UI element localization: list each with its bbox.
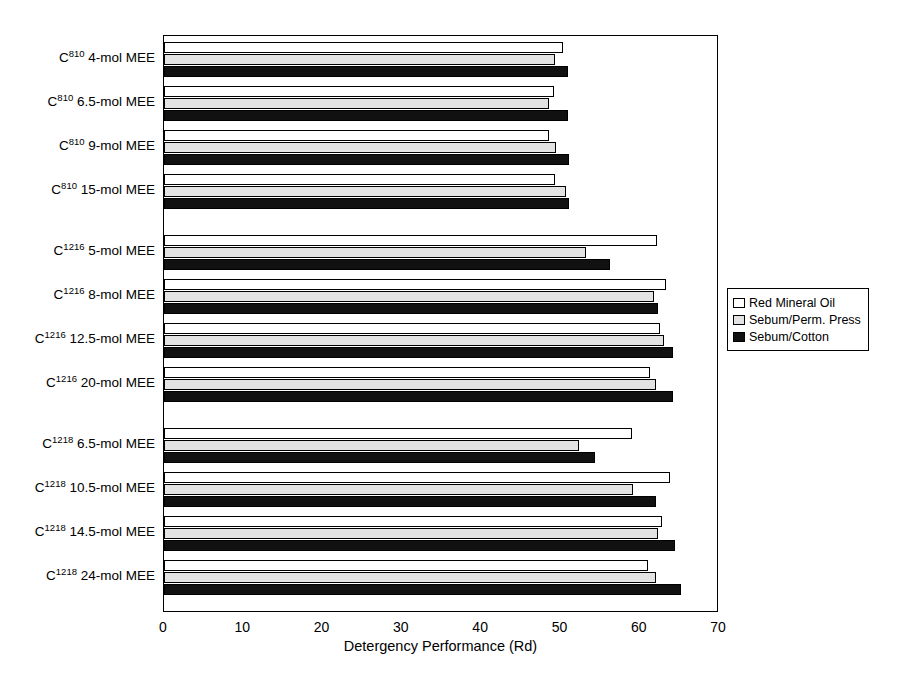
bar <box>164 291 654 302</box>
category-label: C1218 24-mol MEE <box>0 569 155 583</box>
legend-label: Sebum/Cotton <box>749 330 829 344</box>
x-tick-label: 40 <box>472 619 488 635</box>
bar-group <box>164 428 717 464</box>
bar <box>164 540 675 551</box>
category-label: C1218 6.5-mol MEE <box>0 437 155 451</box>
bar <box>164 516 662 527</box>
bar <box>164 303 658 314</box>
x-tick-label: 10 <box>234 619 250 635</box>
bar-group <box>164 323 717 359</box>
category-label: C810 6.5-mol MEE <box>0 95 155 109</box>
bar <box>164 42 563 53</box>
x-tick-label: 60 <box>631 619 647 635</box>
bar <box>164 235 657 246</box>
bar <box>164 367 650 378</box>
category-label: C1218 14.5-mol MEE <box>0 525 155 539</box>
bar <box>164 584 681 595</box>
bar <box>164 496 656 507</box>
bar <box>164 186 566 197</box>
bar <box>164 440 579 451</box>
category-axis-labels: C810 4-mol MEEC810 6.5-mol MEEC810 9-mol… <box>0 35 155 612</box>
legend-label: Sebum/Perm. Press <box>749 313 861 327</box>
plot-area <box>163 35 718 612</box>
bar-group <box>164 86 717 122</box>
bar <box>164 110 568 121</box>
bar <box>164 484 633 495</box>
bar <box>164 142 556 153</box>
bar <box>164 98 549 109</box>
bar <box>164 174 555 185</box>
bar-group <box>164 279 717 315</box>
bar-group <box>164 367 717 403</box>
bar <box>164 323 660 334</box>
x-tick-label: 0 <box>159 619 167 635</box>
category-label: C1216 5-mol MEE <box>0 244 155 258</box>
chart-legend: Red Mineral OilSebum/Perm. PressSebum/Co… <box>727 288 869 351</box>
legend-swatch <box>733 298 745 308</box>
bar-group <box>164 174 717 210</box>
category-label: C1216 12.5-mol MEE <box>0 332 155 346</box>
category-label: C1218 10.5-mol MEE <box>0 481 155 495</box>
bar <box>164 428 632 439</box>
legend-item: Sebum/Perm. Press <box>733 311 861 328</box>
legend-item: Red Mineral Oil <box>733 294 861 311</box>
legend-label: Red Mineral Oil <box>749 296 835 310</box>
bar <box>164 528 658 539</box>
bar <box>164 259 610 270</box>
x-tick-label: 20 <box>314 619 330 635</box>
x-axis-tick-labels: 010203040506070 <box>163 613 718 637</box>
category-label: C1216 20-mol MEE <box>0 376 155 390</box>
category-label: C810 4-mol MEE <box>0 51 155 65</box>
bar <box>164 472 670 483</box>
legend-swatch <box>733 315 745 325</box>
legend-swatch <box>733 332 745 342</box>
bar <box>164 335 664 346</box>
category-label: C810 9-mol MEE <box>0 139 155 153</box>
bar-group <box>164 560 717 596</box>
bars-container <box>164 36 717 611</box>
bar <box>164 66 568 77</box>
x-axis-title: Detergency Performance (Rd) <box>163 638 718 654</box>
category-label: C1216 8-mol MEE <box>0 288 155 302</box>
bar <box>164 391 673 402</box>
x-tick-label: 70 <box>710 619 726 635</box>
bar-group <box>164 130 717 166</box>
category-label: C810 15-mol MEE <box>0 183 155 197</box>
x-tick-label: 30 <box>393 619 409 635</box>
legend-item: Sebum/Cotton <box>733 328 861 345</box>
chart-page: C810 4-mol MEEC810 6.5-mol MEEC810 9-mol… <box>0 0 918 696</box>
bar <box>164 379 656 390</box>
bar <box>164 279 666 290</box>
bar <box>164 452 595 463</box>
bar <box>164 54 555 65</box>
bar <box>164 130 549 141</box>
bar <box>164 198 569 209</box>
bar <box>164 347 673 358</box>
bar-group <box>164 472 717 508</box>
bar <box>164 154 569 165</box>
bar <box>164 572 656 583</box>
bar-group <box>164 42 717 78</box>
bar <box>164 247 586 258</box>
bar <box>164 86 554 97</box>
bar-group <box>164 516 717 552</box>
bar-group <box>164 235 717 271</box>
bar <box>164 560 648 571</box>
x-tick-label: 50 <box>552 619 568 635</box>
